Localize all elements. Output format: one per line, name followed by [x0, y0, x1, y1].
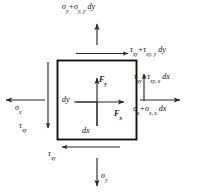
label-sigma-x-incremented: σx+σx, x dx: [133, 105, 166, 113]
stress-element-figure: σy+σy, y dy τxy+τxy, y dy τxy+τxy, x dx …: [0, 0, 222, 192]
label-tau-xy-incremented-x: τxy+τxy, x dx: [134, 73, 170, 81]
label-tau-xy-bottom: τxy: [48, 150, 56, 158]
label-sigma-y-incremented: σy+σy, y dy: [62, 3, 95, 11]
label-tau-xy-incremented-y: τxy+τxy, y dy: [130, 46, 166, 54]
label-force-y: Fy: [99, 76, 107, 84]
label-dimension-dy: dy: [62, 96, 70, 104]
label-sigma-y-bottom: σy: [101, 172, 107, 180]
label-force-x: Fx: [114, 110, 122, 118]
label-dimension-dx: dx: [82, 127, 90, 135]
label-sigma-x: σx: [15, 104, 21, 112]
label-tau-xy-left: τxy: [19, 122, 27, 130]
figure-vector-layer: [0, 0, 222, 192]
